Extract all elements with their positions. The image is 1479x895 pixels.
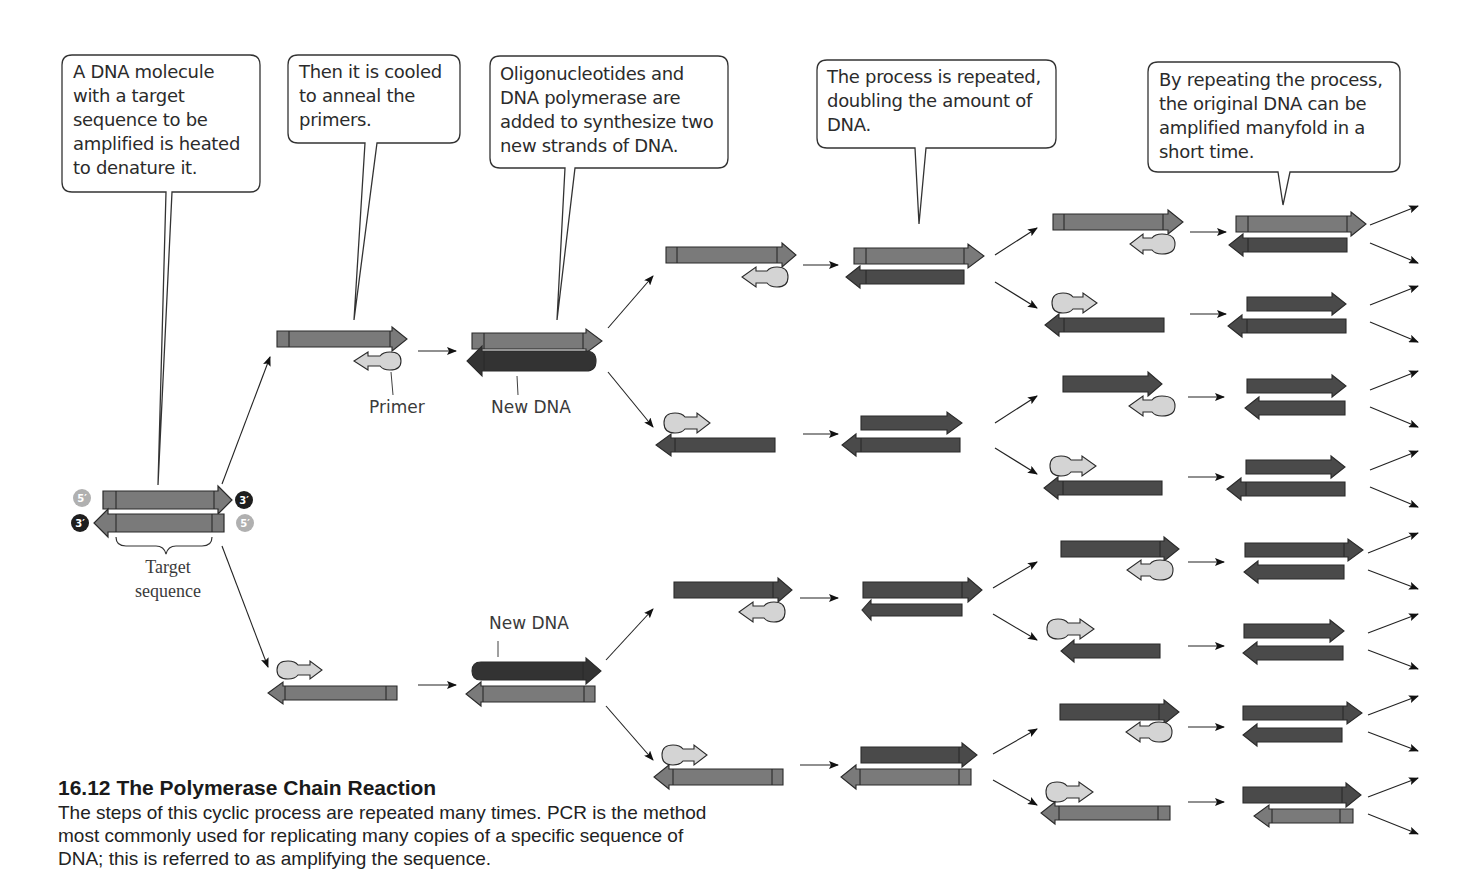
primer-label: Primer xyxy=(369,397,425,417)
callout-synthesize: Oligonucleotides and DNA polymerase are … xyxy=(500,62,728,158)
svg-text:3′: 3′ xyxy=(239,495,249,506)
figure-caption: 16.12 The Polymerase Chain Reaction The … xyxy=(58,775,858,870)
callout-repeat: The process is repeated, doubling the am… xyxy=(827,65,1055,137)
svg-text:3′: 3′ xyxy=(75,518,85,529)
callout-denature: A DNA molecule with a target sequence to… xyxy=(73,60,258,180)
original-dna: 5′ 3′ 3′ 5′ xyxy=(71,486,254,554)
callout-amplify: By repeating the process, the original D… xyxy=(1159,68,1399,164)
caption-title: 16.12 The Polymerase Chain Reaction xyxy=(58,775,858,801)
svg-text:5′: 5′ xyxy=(77,493,87,504)
new-dna-label-top: New DNA xyxy=(491,397,571,417)
caption-body: The steps of this cyclic process are rep… xyxy=(58,801,858,870)
callout-anneal: Then it is cooled to anneal the primers. xyxy=(299,60,459,132)
target-sequence-label: Target sequence xyxy=(124,555,212,603)
svg-text:5′: 5′ xyxy=(240,518,250,529)
new-dna-label-bottom: New DNA xyxy=(489,613,569,633)
